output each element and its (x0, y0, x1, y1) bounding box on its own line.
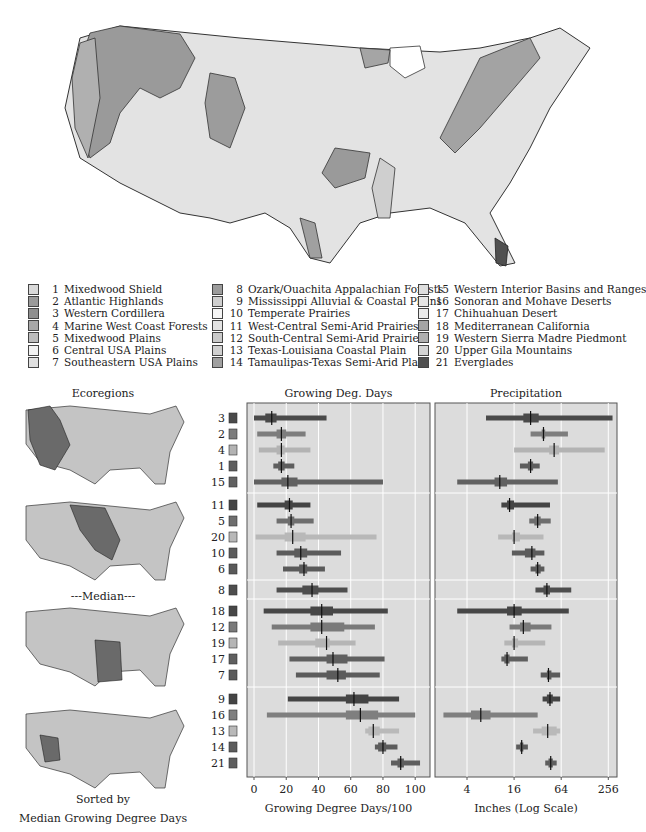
tick-label: 4 (464, 783, 471, 796)
chart-title: Precipitation (490, 387, 562, 400)
axis-label: Growing Degree Days/100 (265, 802, 412, 815)
whisker-bar (254, 480, 383, 485)
row-label: 9 (218, 693, 225, 706)
row-swatch (229, 638, 237, 648)
tick-label: 16 (507, 783, 521, 796)
row-label: 20 (211, 531, 225, 544)
iqr-box (265, 414, 276, 423)
axis-label: Inches (Log Scale) (474, 802, 578, 815)
row-swatch (229, 445, 237, 455)
whisker-bar (257, 503, 310, 508)
row-label: 5 (218, 515, 225, 528)
row-swatch (229, 548, 237, 558)
iqr-box (525, 549, 536, 558)
tick-label: 40 (311, 783, 325, 796)
row-swatch (229, 500, 237, 510)
iqr-box (310, 623, 344, 632)
iqr-box (378, 743, 386, 752)
row-swatch (229, 429, 237, 439)
tick-label: 20 (279, 783, 293, 796)
row-swatch (229, 622, 237, 632)
row-swatch (229, 413, 237, 423)
row-label: 8 (218, 584, 225, 597)
iqr-box (346, 695, 369, 704)
whisker-bar (277, 519, 314, 524)
whisker-bar (535, 588, 571, 593)
iqr-box (302, 586, 318, 595)
iqr-box (512, 533, 520, 542)
row-label: 4 (218, 444, 225, 457)
whisker-bar (256, 535, 377, 540)
sort-caption-line1: Sorted by (76, 793, 131, 806)
row-label: 19 (211, 637, 225, 650)
whisker-bar (504, 641, 545, 646)
row-swatch (229, 585, 237, 595)
row-label: 1 (218, 460, 225, 473)
iqr-box (285, 533, 306, 542)
row-label: 15 (211, 476, 225, 489)
iqr-box (520, 623, 531, 632)
iqr-box (277, 446, 285, 455)
row-swatch (229, 532, 237, 542)
row-label: 14 (211, 741, 225, 754)
row-label: 2 (218, 428, 225, 441)
row-swatch (229, 606, 237, 616)
tick-label: 256 (598, 783, 619, 796)
row-label: 6 (218, 563, 225, 576)
row-label: 13 (211, 725, 225, 738)
row-swatch (229, 758, 237, 768)
iqr-box (542, 727, 557, 736)
row-label: 12 (211, 621, 225, 634)
row-swatch (229, 694, 237, 704)
row-swatch (229, 726, 237, 736)
row-swatch (229, 461, 237, 471)
tick-label: 64 (554, 783, 568, 796)
whisker-bar (254, 416, 327, 421)
whisker-bar (277, 551, 341, 556)
row-label: 16 (211, 709, 225, 722)
chart-title: Growing Deg. Days (285, 387, 393, 400)
iqr-box (327, 671, 346, 680)
iqr-box (327, 655, 348, 664)
iqr-box (512, 639, 518, 648)
median-label: ---Median--- (71, 590, 136, 603)
row-swatch (229, 516, 237, 526)
tick-label: 60 (344, 783, 358, 796)
iqr-box (495, 478, 507, 487)
whisker-bar (288, 697, 399, 702)
row-label: 11 (211, 499, 225, 512)
row-label: 18 (211, 605, 225, 618)
whisker-bar (486, 416, 613, 421)
row-swatch (229, 742, 237, 752)
row-swatch (229, 710, 237, 720)
whisker-bar (531, 432, 568, 437)
iqr-box (281, 478, 297, 487)
row-label: 21 (211, 757, 225, 770)
whisker-bar (498, 535, 543, 540)
tick-label: 80 (376, 783, 390, 796)
row-label: 17 (211, 653, 225, 666)
row-swatch (229, 477, 237, 487)
row-swatch (229, 564, 237, 574)
tick-label: 0 (251, 783, 258, 796)
small-maps-title: Ecoregions (72, 387, 135, 400)
iqr-box (285, 501, 293, 510)
row-swatch (229, 654, 237, 664)
iqr-box (299, 565, 307, 574)
whisker-bar (457, 480, 558, 485)
iqr-box (315, 639, 330, 648)
iqr-box (507, 501, 514, 510)
whisker-bar (391, 761, 420, 766)
row-label: 7 (218, 669, 225, 682)
row-label: 10 (211, 547, 225, 560)
iqr-box (346, 711, 378, 720)
sort-caption-line2: Median Growing Degree Days (19, 812, 187, 825)
highlight-region (95, 640, 122, 682)
iqr-box (368, 727, 379, 736)
tick-label: 100 (405, 783, 426, 796)
whisker-bar (267, 713, 415, 718)
row-label: 3 (218, 412, 225, 425)
row-swatch (229, 670, 237, 680)
iqr-box (547, 671, 552, 680)
